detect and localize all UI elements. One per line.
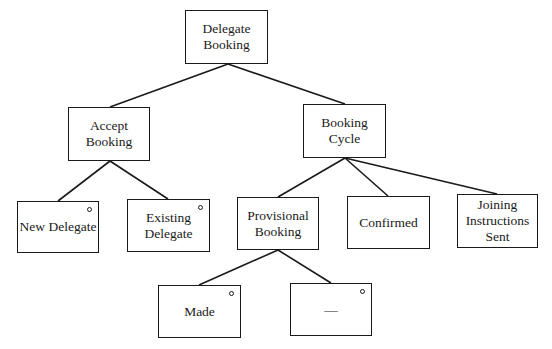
edge-cycle-provisional	[278, 158, 345, 197]
node-joining-instructions-sent: Joining Instructions Sent	[457, 194, 538, 248]
edge-accept-new	[58, 161, 110, 201]
node-delegate-booking: Delegate Booking	[185, 10, 268, 64]
node-null-component: —	[290, 283, 372, 336]
node-accept-booking: Accept Booking	[68, 107, 150, 161]
connector-lines	[0, 0, 552, 349]
node-provisional-booking: Provisional Booking	[237, 197, 319, 250]
edge-accept-existing	[110, 161, 168, 199]
node-label: —	[324, 302, 338, 318]
edge-root-cycle	[228, 64, 345, 104]
node-label: Provisional Booking	[247, 208, 309, 240]
node-existing-delegate: Existing Delegate	[127, 199, 210, 252]
node-made: Made	[158, 285, 241, 338]
selection-circle-icon	[87, 207, 92, 212]
selection-circle-icon	[360, 289, 365, 294]
node-label: Delegate Booking	[203, 21, 251, 53]
node-label: Joining Instructions Sent	[466, 197, 530, 245]
node-label: Made	[184, 304, 215, 320]
edge-cycle-joining	[345, 158, 497, 194]
node-label: New Delegate	[20, 219, 97, 235]
node-confirmed: Confirmed	[347, 196, 430, 249]
edge-provisional-dash	[278, 250, 331, 283]
selection-circle-icon	[198, 205, 203, 210]
node-label: Accept Booking	[86, 118, 133, 150]
selection-circle-icon	[229, 291, 234, 296]
edge-root-accept	[110, 64, 228, 107]
node-booking-cycle: Booking Cycle	[303, 104, 386, 158]
node-new-delegate: New Delegate	[17, 201, 99, 253]
edge-provisional-made	[199, 250, 278, 285]
node-label: Confirmed	[359, 215, 418, 231]
node-label: Booking Cycle	[321, 115, 368, 147]
node-label: Existing Delegate	[145, 210, 193, 242]
